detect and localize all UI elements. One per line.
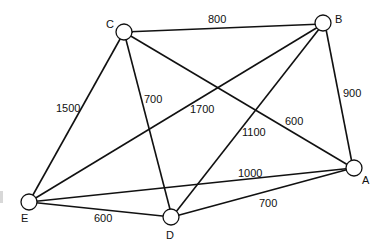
node-d	[163, 209, 179, 225]
weight-c-d: 700	[144, 94, 162, 105]
graph-canvas	[0, 0, 387, 247]
node-label-c: C	[106, 19, 114, 30]
weight-b-a: 900	[343, 88, 361, 99]
weight-c-b: 800	[208, 14, 226, 25]
weight-d-a: 700	[259, 198, 277, 209]
node-label-d: D	[166, 230, 174, 241]
node-e	[21, 194, 37, 210]
node-label-b: B	[335, 14, 342, 25]
edge-c-e	[29, 32, 124, 202]
weight-b-e: 1700	[190, 104, 214, 115]
edge-c-b	[124, 24, 323, 32]
weight-c-e: 1500	[56, 103, 80, 114]
node-c	[116, 24, 132, 40]
node-a	[346, 160, 362, 176]
node-b	[315, 15, 331, 31]
weight-c-a: 600	[285, 116, 303, 127]
node-label-a: A	[362, 175, 369, 186]
node-label-e: E	[21, 213, 28, 224]
edge-d-a	[172, 168, 353, 217]
weight-b-d: 1100	[242, 127, 266, 138]
weight-e-a: 1000	[238, 168, 262, 179]
weight-e-d: 600	[94, 213, 112, 224]
